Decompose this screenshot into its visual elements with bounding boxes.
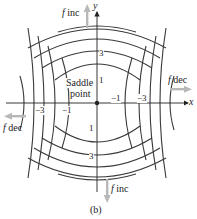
x-axis-label: x (189, 97, 193, 107)
y-axis-label: y (93, 1, 97, 11)
figure-caption: (b) (90, 205, 102, 215)
contour-label-yneg1: 1 (89, 124, 94, 133)
f-inc-up-label: f inc (62, 8, 80, 18)
contour-label-xneg1: −1 (62, 106, 72, 115)
f-symbol: f (62, 7, 65, 18)
inc-text: inc (67, 7, 79, 18)
contour-label-y3: 3 (99, 49, 104, 58)
f-symbol: f (168, 74, 171, 85)
contour-label-xneg3: −3 (35, 106, 45, 115)
saddle-label-line1: Saddle (66, 78, 93, 88)
f-dec-right-label: f dec (168, 75, 187, 85)
saddle-point-dot (95, 101, 99, 105)
f-dec-left-label: f dec (3, 123, 22, 133)
saddle-label-line2: point (70, 89, 91, 99)
f-symbol: f (3, 122, 6, 133)
contour-label-xpos1: −1 (111, 94, 121, 103)
dec-text: dec (173, 74, 187, 85)
contour-label-y1: 1 (99, 76, 104, 85)
contour-label-yneg3: 3 (89, 152, 94, 161)
inc-text: inc (116, 183, 128, 194)
f-inc-down-label: f inc (111, 184, 129, 194)
saddle-contour-diagram (0, 0, 197, 219)
dec-text: dec (8, 122, 22, 133)
contour-label-xpos3: −3 (137, 94, 147, 103)
f-symbol: f (111, 183, 114, 194)
